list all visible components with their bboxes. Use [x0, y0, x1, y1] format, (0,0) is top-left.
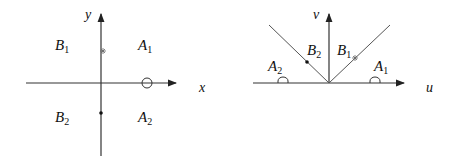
u-axis-label: u: [426, 80, 433, 95]
conformal-mapping-figure: x y B1 A1 B2 A2 u v B2 B1 A2 A1: [0, 0, 456, 163]
y-axis-label: y: [83, 7, 92, 22]
dot-marker-icon: [99, 111, 103, 115]
region-a2-label: A2: [137, 109, 152, 127]
region-b1-label: B1: [337, 42, 351, 60]
dot-marker-icon: [305, 60, 309, 64]
region-a1-label: A1: [373, 58, 388, 76]
x-axis-label: x: [198, 80, 206, 95]
region-b2-label: B2: [55, 109, 69, 127]
v-axis-label: v: [313, 7, 320, 22]
semicircle-left-marker-icon: [278, 77, 288, 83]
region-a2-label: A2: [267, 58, 282, 76]
right-diagram: u v B2 B1 A2 A1: [253, 7, 433, 95]
region-b2-label: B2: [307, 42, 321, 60]
semicircle-right-marker-icon: [370, 77, 380, 83]
left-diagram: x y B1 A1 B2 A2: [26, 7, 206, 156]
region-a1-label: A1: [137, 37, 152, 55]
region-b1-label: B1: [55, 37, 69, 55]
